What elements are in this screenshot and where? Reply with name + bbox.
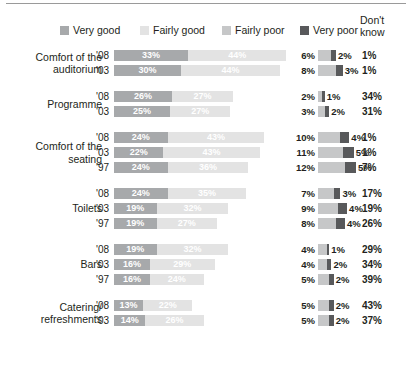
group-label-line: auditorium [0, 63, 102, 76]
segment-fairly-good: 35% [168, 188, 246, 199]
stacked-bar: 24%35% [114, 188, 246, 199]
legend-label: Fairly good [153, 24, 205, 36]
segment-very-poor [329, 315, 333, 326]
legend-label: Fairly poor [235, 24, 285, 36]
segment-very-poor [336, 65, 343, 76]
fairly-poor-value-label: 11% [286, 147, 315, 158]
segment-very-good: 19% [114, 218, 157, 229]
segment-fairly-poor [318, 218, 336, 229]
dont-know-value-label: 17% [362, 188, 406, 199]
fairly-poor-value-label: 10% [286, 132, 315, 143]
segment-very-good: 24% [114, 162, 168, 173]
stacked-bar: 25%27% [114, 106, 230, 117]
segment-very-good: 24% [114, 132, 168, 143]
stacked-bar: 19%27% [114, 218, 217, 229]
group-label-line: Programme [0, 98, 102, 111]
segment-fairly-good: 44% [188, 50, 287, 61]
fairly-poor-value-label: 7% [286, 188, 315, 199]
group-label: Toilets [0, 202, 102, 215]
segment-very-poor [338, 203, 347, 214]
fairly-poor-value-label: 3% [286, 106, 315, 117]
segment-fairly-poor [318, 162, 345, 173]
dont-know-value-label: 43% [362, 300, 406, 311]
very-poor-value-label: 2% [336, 300, 360, 311]
segment-very-good: 16% [114, 274, 150, 285]
segment-fairly-good: 43% [163, 147, 259, 158]
stacked-bar: 33%44% [114, 50, 286, 61]
stacked-bar: 24%43% [114, 132, 264, 143]
fairly-poor-value-label: 5% [286, 300, 315, 311]
dont-know-value-label: 37% [362, 315, 406, 326]
segment-very-poor [329, 274, 333, 285]
dont-know-value-label: 1% [362, 147, 406, 158]
fairly-poor-value-label: 12% [286, 162, 315, 173]
legend-item-very-poor: Very poor [300, 22, 358, 38]
segment-very-good: 16% [114, 259, 150, 270]
fairly-poor-value-label: 8% [286, 218, 315, 229]
segment-very-good: 19% [114, 244, 157, 255]
legend-label: Very poor [313, 24, 358, 36]
group-label-line: seating [0, 153, 102, 166]
fairly-poor-value-label: 4% [286, 244, 315, 255]
stacked-bar-chart: Very goodFairly goodFairly poorVery poor… [0, 0, 412, 390]
top-divider [6, 3, 406, 4]
segment-very-good: 30% [114, 65, 181, 76]
segment-fairly-poor [318, 50, 331, 61]
segment-fairly-poor [318, 65, 336, 76]
dont-know-header-line-1: Don't [360, 14, 406, 26]
segment-fairly-poor [318, 147, 343, 158]
segment-very-good: 33% [114, 50, 188, 61]
dont-know-value-label: 29% [362, 244, 406, 255]
segment-very-good: 25% [114, 106, 170, 117]
square-swatch-icon [300, 26, 309, 35]
dont-know-value-label: 7% [362, 162, 406, 173]
stacked-bar: 19%32% [114, 203, 228, 214]
stacked-bar: 16%29% [114, 259, 215, 270]
very-poor-value-label: 1% [331, 244, 355, 255]
row-year-label: '97 [96, 273, 116, 286]
segment-very-poor [340, 132, 349, 143]
dont-know-value-label: 34% [362, 259, 406, 270]
fairly-poor-value-label: 9% [286, 203, 315, 214]
segment-fairly-poor [318, 259, 327, 270]
segment-fairly-poor [318, 132, 340, 143]
group-label-line: Comfort of the [0, 140, 102, 153]
segment-fairly-poor [318, 315, 329, 326]
row-year-label: '08 [96, 187, 116, 200]
segment-fairly-good: 32% [157, 203, 229, 214]
chart-row: '0819%32%4%1%29% [0, 242, 412, 257]
segment-fairly-good: 27% [170, 106, 230, 117]
segment-fairly-good: 22% [143, 300, 192, 311]
fairly-poor-value-label: 6% [286, 50, 315, 61]
dont-know-value-label: 34% [362, 91, 406, 102]
group-label-line: Comfort of the [0, 51, 102, 64]
fairly-poor-value-label: 5% [286, 274, 315, 285]
segment-fairly-good: 27% [172, 91, 232, 102]
segment-very-poor [331, 50, 335, 61]
dont-know-value-label: 1% [362, 132, 406, 143]
segment-very-poor [327, 244, 329, 255]
row-year-label: '97 [96, 217, 116, 230]
very-poor-value-label: 2% [333, 259, 357, 270]
segment-fairly-poor [318, 106, 325, 117]
segment-fairly-good: 36% [168, 162, 249, 173]
dont-know-value-label: 1% [362, 65, 406, 76]
segment-very-poor [329, 300, 333, 311]
square-swatch-icon [60, 26, 69, 35]
legend-item-very-good: Very good [60, 22, 120, 38]
fairly-poor-value-label: 2% [286, 91, 315, 102]
very-poor-value-label: 1% [327, 91, 351, 102]
stacked-bar: 13%22% [114, 300, 192, 311]
very-poor-value-label: 2% [338, 50, 362, 61]
segment-fairly-good: 43% [168, 132, 264, 143]
segment-fairly-poor [318, 188, 334, 199]
dont-know-value-label: 1% [362, 50, 406, 61]
row-year-label: '08 [96, 243, 116, 256]
group-label-line: Catering/ [0, 301, 102, 314]
segment-very-poor [334, 188, 341, 199]
stacked-bar: 26%27% [114, 91, 233, 102]
segment-very-poor [327, 259, 331, 270]
stacked-bar: 30%44% [114, 65, 280, 76]
segment-very-poor [343, 147, 354, 158]
very-poor-value-label: 2% [331, 106, 355, 117]
